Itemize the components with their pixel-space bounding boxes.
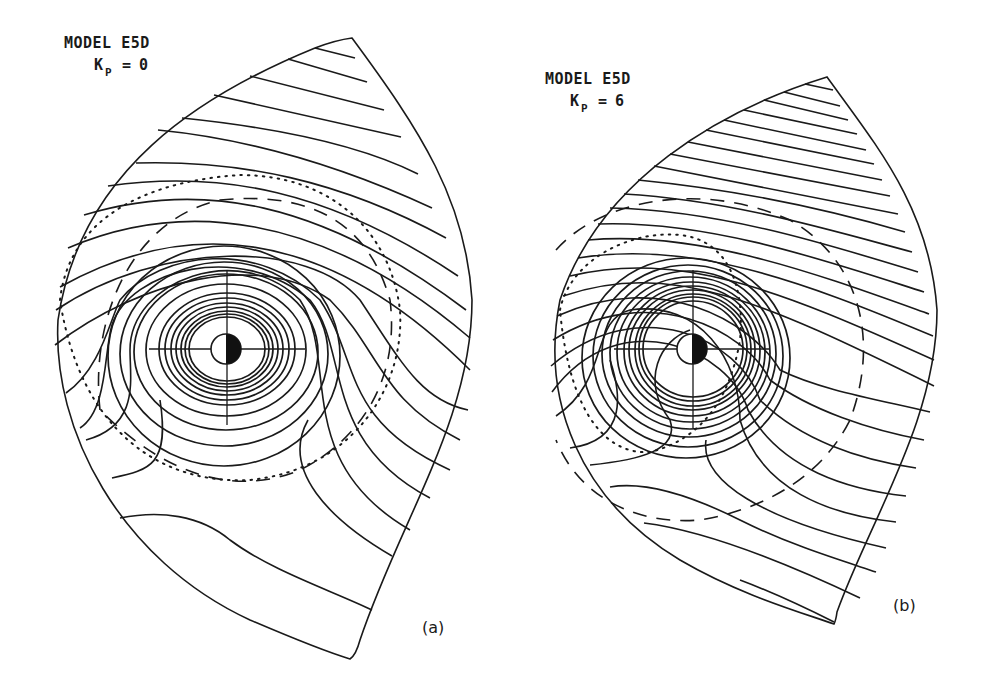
panel-b-label: (b) — [893, 596, 916, 615]
panel-a-parameter: K P = 0 — [94, 56, 149, 79]
param-equals: = — [122, 56, 132, 74]
param-equals: = — [598, 92, 608, 110]
panel-b: MODEL E5D K P = 6 — [545, 70, 937, 624]
param-value: 0 — [139, 56, 149, 74]
figure: MODEL E5D K P = 0 — [0, 0, 981, 700]
panel-a-label: (a) — [422, 618, 444, 637]
param-symbol: K — [94, 56, 104, 74]
panel-b-title: MODEL E5D — [545, 70, 631, 88]
panel-a-earth-icon — [211, 334, 241, 364]
param-subscript: P — [105, 66, 112, 79]
param-symbol: K — [570, 92, 580, 110]
param-value: 6 — [615, 92, 625, 110]
panel-b-parameter: K P = 6 — [570, 92, 625, 115]
param-subscript: P — [581, 102, 588, 115]
panel-a: MODEL E5D K P = 0 — [55, 34, 472, 659]
panel-a-title: MODEL E5D — [64, 34, 150, 52]
panel-b-earth-icon — [677, 334, 707, 364]
